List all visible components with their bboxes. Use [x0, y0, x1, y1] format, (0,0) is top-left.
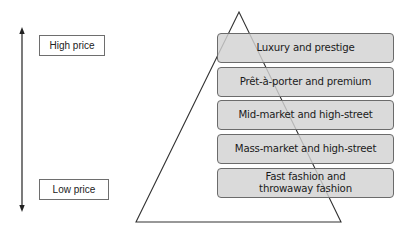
- tier-fast-fashion: Fast fashion and throwaway fashion: [217, 168, 394, 198]
- low-price-label: Low price: [39, 179, 109, 200]
- tier-mid-market: Mid-market and high-street: [217, 100, 394, 130]
- tier-mass-market: Mass-market and high-street: [217, 134, 394, 164]
- price-arrow: [19, 27, 24, 212]
- tier-luxury: Luxury and prestige: [217, 33, 394, 63]
- high-price-label: High price: [39, 35, 105, 56]
- fashion-market-pyramid-diagram: High price Low price Luxury and prestige…: [0, 0, 416, 235]
- tier-pret-a-porter: Prêt-à-porter and premium: [217, 67, 394, 97]
